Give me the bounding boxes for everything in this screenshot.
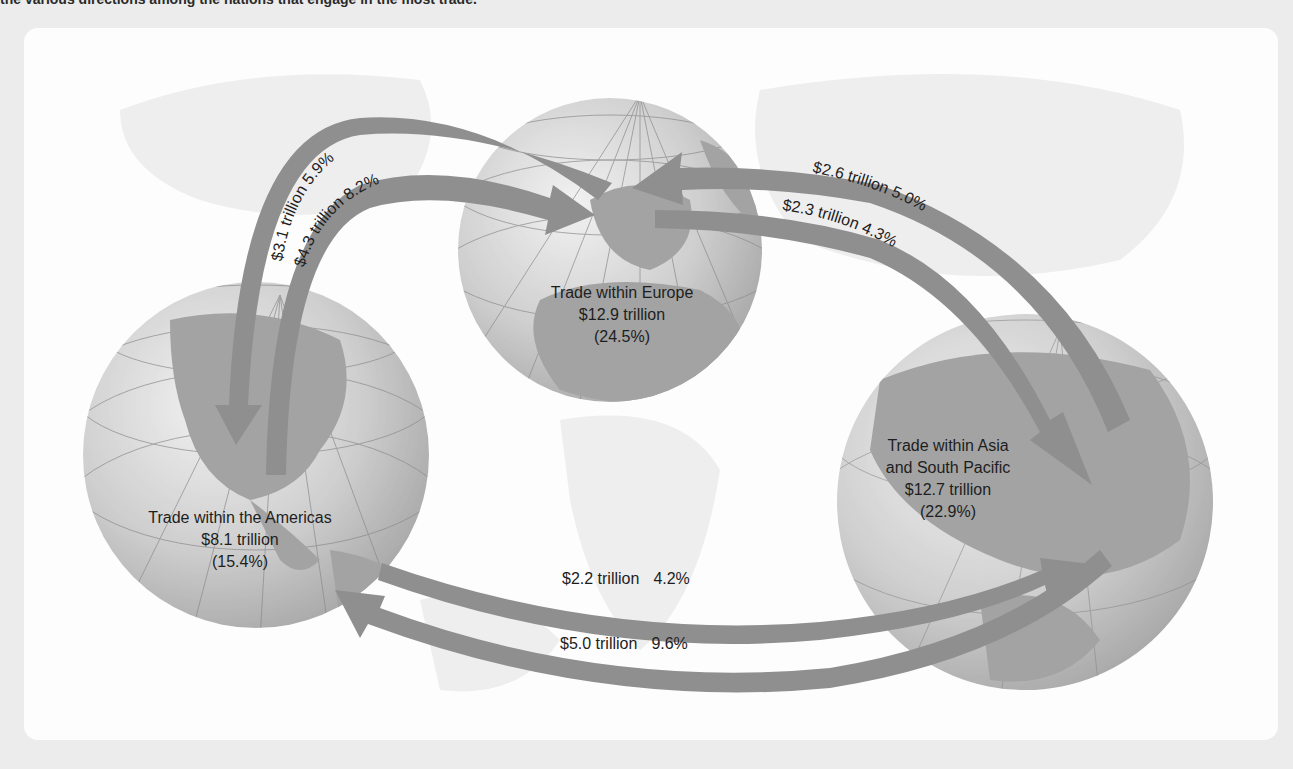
europe-globe — [410, 80, 810, 405]
americas-globe — [46, 282, 466, 650]
svg-text:$12.9 trillion: $12.9 trillion — [579, 306, 665, 323]
svg-text:Trade within Asia: Trade within Asia — [887, 437, 1008, 454]
svg-text:(24.5%): (24.5%) — [594, 328, 650, 345]
flow-label-americas-to-asia: $2.2 trillion4.2% — [562, 570, 690, 587]
svg-text:Trade within Europe: Trade within Europe — [551, 284, 694, 301]
trade-flow-diagram: $3.1 trillion 5.9% $4.3 trillion 8.2% $2… — [0, 0, 1293, 769]
svg-text:(22.9%): (22.9%) — [920, 503, 976, 520]
flow-label-asia-to-americas: $5.0 trillion9.6% — [560, 635, 688, 652]
svg-text:$8.1 trillion: $8.1 trillion — [201, 531, 278, 548]
svg-text:$12.7 trillion: $12.7 trillion — [905, 481, 991, 498]
asia-pacific-globe — [805, 314, 1245, 700]
svg-text:and South Pacific: and South Pacific — [886, 459, 1011, 476]
svg-text:(15.4%): (15.4%) — [212, 553, 268, 570]
svg-text:Trade within the Americas: Trade within the Americas — [148, 509, 331, 526]
